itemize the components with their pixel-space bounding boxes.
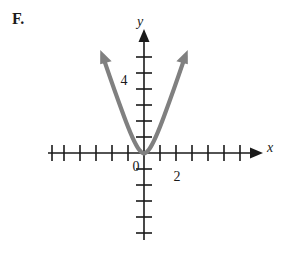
y-axis-arrowhead [139,29,150,42]
x-tick-label-2: 2 [174,169,181,184]
x-axis-arrowhead [250,148,263,159]
graph-figure: F. [0,0,293,265]
parabola-left-arrowhead [98,48,112,64]
parabola-right-arrowhead [176,48,190,64]
x-axis-label: x [266,140,274,155]
y-tick-label-4: 4 [121,73,128,88]
origin-label: 0 [133,159,140,174]
y-axis-label: y [135,14,144,29]
coordinate-plane: x y 0 2 4 [0,0,293,265]
